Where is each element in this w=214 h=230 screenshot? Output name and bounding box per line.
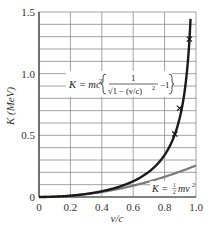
classical-formula-label: K = 1 2 mv 2: [150, 181, 195, 196]
y-tick-label: 0: [30, 191, 36, 203]
x-tick-label: 0.8: [158, 201, 172, 213]
svg-text:2: 2: [192, 182, 195, 188]
y-tick-label: 1.5: [21, 6, 35, 18]
svg-text:−1: −1: [160, 80, 170, 90]
x-tick-label: 0.4: [95, 201, 109, 213]
x-axis-label: v/c: [111, 212, 124, 224]
svg-text:2: 2: [152, 85, 155, 91]
x-tick-label: 0.2: [64, 201, 78, 213]
x-tick-label: 0: [36, 201, 42, 213]
relativistic-formula-label: K = mc 2 1 √1 − (v/c) 2 −1: [66, 71, 174, 97]
x-tick-label: 0.6: [126, 201, 140, 213]
x-tick-label: 1.0: [189, 201, 203, 213]
y-tick-label: 1.0: [21, 68, 35, 80]
kinetic-energy-chart: 00.20.40.60.81.000.51.01.5 K = mc 2 1 √1…: [0, 0, 214, 230]
svg-text:mv: mv: [178, 183, 190, 194]
svg-text:K = mc: K = mc: [68, 79, 101, 90]
svg-text:1: 1: [173, 182, 176, 188]
relativistic-curve: [39, 19, 191, 197]
svg-text:√1 − (v/c): √1 − (v/c): [108, 86, 142, 96]
grid: [39, 12, 196, 197]
axes: [39, 12, 196, 197]
svg-text:K =: K =: [151, 183, 168, 194]
y-axis-label: K (MeV): [4, 87, 17, 127]
svg-text:1: 1: [131, 73, 136, 83]
svg-text:2: 2: [173, 189, 176, 195]
y-tick-label: 0.5: [21, 129, 35, 141]
